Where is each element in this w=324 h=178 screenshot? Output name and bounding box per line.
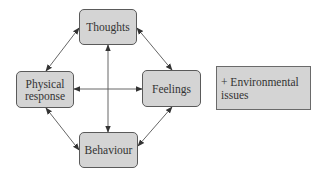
edge-thoughts-physical [46,28,79,71]
node-physical-response: Physical response [16,71,74,108]
diagram-canvas: Thoughts Physical response Feelings Beha… [0,0,324,178]
node-physical-label-line2: response [25,90,65,102]
edge-physical-behaviour [46,108,79,150]
edge-feelings-behaviour [138,107,172,146]
node-thoughts: Thoughts [79,9,137,45]
node-behaviour-label: Behaviour [85,144,133,156]
edge-thoughts-feelings [137,28,172,70]
node-behaviour: Behaviour [79,132,138,168]
node-feelings: Feelings [142,70,201,107]
environmental-issues-line2: issues [221,89,310,102]
node-thoughts-label: Thoughts [86,21,129,33]
node-physical-label-line1: Physical [26,78,65,90]
environmental-issues-box: + Environmental issues [216,66,311,110]
node-feelings-label: Feelings [152,83,191,95]
environmental-issues-line1: + Environmental [221,76,310,89]
